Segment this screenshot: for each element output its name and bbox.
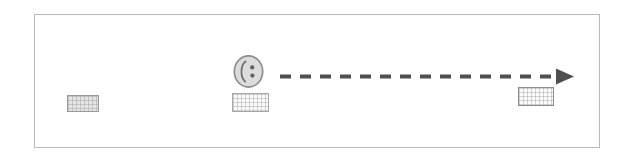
right-block	[518, 87, 554, 106]
dashed-arrow	[278, 66, 578, 88]
left-block	[67, 95, 99, 112]
center-block	[232, 93, 269, 112]
diagram-canvas	[0, 0, 634, 162]
face-icon	[233, 55, 264, 88]
